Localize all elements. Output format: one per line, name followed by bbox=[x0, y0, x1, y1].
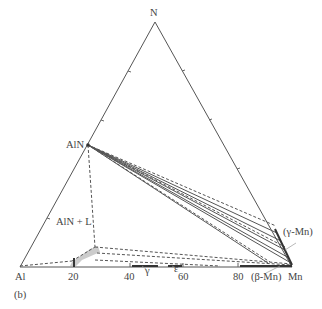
panel-label: (b) bbox=[14, 290, 26, 301]
region-label-gamma: γ bbox=[145, 266, 150, 277]
triangle-outline bbox=[20, 22, 292, 267]
vertex-label-n: N bbox=[150, 8, 158, 19]
region-label-gamma-mn: (γ-Mn) bbox=[283, 227, 313, 238]
vertex-label-al: Al bbox=[15, 272, 26, 283]
axis-tick-20: 20 bbox=[68, 272, 79, 283]
ternary-diagram bbox=[0, 0, 322, 309]
region-label-beta-mn: (β-Mn) bbox=[251, 272, 281, 283]
aln-point bbox=[86, 143, 90, 147]
region-label-aln-liquid: AlN + L bbox=[56, 217, 92, 228]
axis-tick-40: 40 bbox=[124, 272, 135, 283]
tie-lines bbox=[88, 145, 291, 263]
dashed-boundaries bbox=[20, 145, 292, 266]
axis-tick-80: 80 bbox=[233, 272, 244, 283]
vertex-label-mn: Mn bbox=[288, 272, 303, 283]
axis-tick-60: 60 bbox=[178, 272, 189, 283]
compound-label-aln: AlN bbox=[66, 140, 84, 151]
leader-lines bbox=[142, 243, 296, 273]
